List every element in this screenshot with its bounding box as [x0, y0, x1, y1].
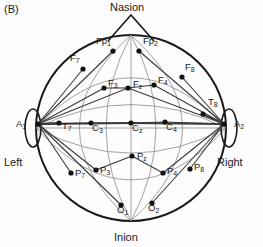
electrode-label-a2: A2 [234, 119, 244, 129]
electrode-label-pz: Pz [137, 151, 147, 161]
electrode-label-t8: T8 [208, 97, 218, 107]
electrode-label-f3: F3 [108, 78, 118, 88]
electrode-label-subscript: 3 [114, 82, 118, 89]
electrode-dot-p7 [68, 170, 73, 175]
electrode-label-subscript: 4 [164, 79, 168, 86]
electrode-label-subscript: 4 [173, 126, 177, 133]
electrode-dot-fz [125, 85, 130, 90]
electrode-dot-p4 [160, 170, 165, 175]
electrode-label-fz: Fz [133, 79, 142, 89]
electrode-label-base: Fp [143, 35, 154, 46]
electrode-label-subscript: 1 [124, 209, 128, 216]
electrode-label-t7: T7 [62, 121, 72, 131]
electrode-label-base: T [208, 96, 214, 107]
electrode-label-p7: P7 [75, 168, 85, 178]
electrode-label-p4: P4 [167, 166, 177, 176]
electrode-label-cz: Cz [132, 123, 142, 133]
electrode-label-subscript: 8 [191, 66, 195, 73]
electrode-label-subscript: 4 [173, 170, 177, 177]
electrode-label-base: F [158, 74, 164, 85]
electrode-label-base: F [108, 77, 114, 88]
electrode-label-base: F [185, 61, 191, 72]
electrode-label-subscript: z [139, 127, 143, 134]
electrode-dot-t8 [200, 111, 205, 116]
eeg-electrode-placement-figure: (B) Nasion Inion Left Right Fp1Fp2F7F8F3… [0, 0, 263, 247]
measure-line-a2-to-cz [131, 123, 224, 124]
electrode-label-subscript: 1 [107, 40, 111, 47]
electrode-label-subscript: 7 [68, 125, 72, 132]
electrode-dot-f7 [80, 66, 85, 71]
electrode-label-subscript: 2 [154, 40, 158, 47]
electrode-dot-p3 [93, 167, 98, 172]
electrode-label-subscript: z [139, 83, 143, 90]
electrode-label-p3: P3 [100, 165, 110, 175]
electrode-label-p8: P8 [194, 162, 204, 172]
electrode-label-subscript: 2 [240, 123, 244, 130]
electrode-label-f7: F7 [70, 53, 80, 63]
panel-label: (B) [4, 4, 19, 15]
electrode-label-base: F [133, 78, 139, 89]
electrode-label-a1: A1 [16, 119, 26, 129]
electrode-label-subscript: 1 [22, 123, 26, 130]
right-side-label: Right [217, 157, 243, 168]
electrode-dot-f4 [151, 82, 156, 87]
measure-line-a1-to-f7 [38, 69, 83, 124]
measure-line-a2-to-o2 [152, 124, 224, 203]
electrode-label-base: C [92, 122, 99, 133]
measure-line-a1-to-f3 [38, 88, 104, 124]
electrode-dot-fp2 [136, 48, 141, 53]
nasion-label: Nasion [110, 2, 144, 13]
electrode-label-base: Fp [96, 35, 107, 46]
electrode-label-subscript: 8 [200, 166, 204, 173]
electrode-label-subscript: 2 [155, 207, 159, 214]
electrode-dot-a1 [35, 121, 40, 126]
electrode-dot-t7 [56, 120, 61, 125]
electrode-dot-f8 [179, 74, 184, 79]
electrode-label-f4: F4 [158, 75, 168, 85]
electrode-label-base: C [166, 121, 173, 132]
electrode-label-base: C [132, 122, 139, 133]
electrode-label-fp2: Fp2 [143, 36, 158, 46]
left-side-label: Left [4, 157, 22, 168]
electrode-label-base: F [70, 52, 76, 63]
electrode-label-o2: O2 [148, 203, 159, 213]
electrode-label-c4: C4 [166, 122, 177, 132]
electrode-dot-pz [129, 153, 134, 158]
electrode-label-base: T [62, 120, 68, 131]
electrode-label-subscript: 8 [214, 101, 218, 108]
electrode-label-subscript: 7 [76, 57, 80, 64]
electrode-label-subscript: 3 [106, 169, 110, 176]
electrode-label-subscript: 7 [81, 172, 85, 179]
electrode-label-c3: C3 [92, 123, 103, 133]
electrode-dot-f3 [101, 85, 106, 90]
electrode-dot-fp1 [110, 48, 115, 53]
electrode-dot-p8 [187, 166, 192, 171]
electrode-label-o1: O1 [117, 205, 128, 215]
electrode-label-fp1: Fp1 [96, 36, 111, 46]
electrode-label-subscript: z [143, 155, 147, 162]
electrode-dot-a2 [221, 121, 226, 126]
inion-label: Inion [114, 232, 138, 243]
electrode-label-subscript: 3 [99, 127, 103, 134]
measure-line-a1-to-p7 [38, 124, 71, 173]
electrode-label-f8: F8 [185, 62, 195, 72]
measure-line-a1-to-fz [38, 88, 128, 124]
